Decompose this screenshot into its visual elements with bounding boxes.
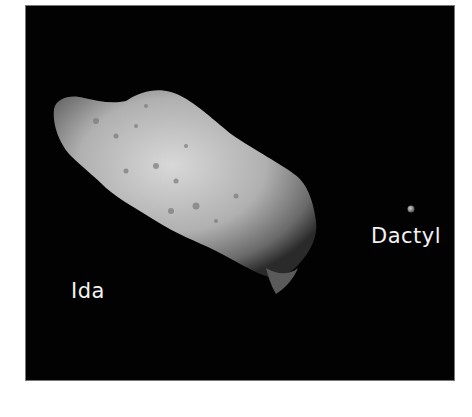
ida-label: Ida (71, 279, 105, 303)
space-photo: Ida Dactyl (25, 5, 455, 381)
asteroid-illustration (26, 6, 455, 381)
dactyl-moon (408, 206, 415, 213)
ida-asteroid (54, 90, 317, 278)
dactyl-label: Dactyl (371, 224, 441, 248)
